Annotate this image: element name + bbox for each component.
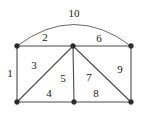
edge-label-3: 3 [31, 60, 37, 71]
graph-figure: 1 2 3 4 5 6 7 8 9 10 [0, 0, 141, 117]
edge-10-arc [17, 25, 131, 47]
vertex-top-right [129, 44, 134, 49]
edge-5-line [73, 46, 74, 102]
edge-label-6: 6 [96, 33, 102, 44]
vertex-top-middle [71, 44, 76, 49]
vertex-top-left [15, 44, 20, 49]
edge-label-9: 9 [117, 64, 123, 75]
vertex-bottom-right [129, 100, 134, 105]
edge-label-4: 4 [46, 88, 52, 99]
vertex-bottom-middle [72, 100, 77, 105]
edge-label-10: 10 [69, 8, 80, 19]
edge-label-1: 1 [7, 68, 13, 79]
edge-label-8: 8 [93, 88, 99, 99]
edge-label-5: 5 [60, 73, 66, 84]
edge-label-2: 2 [42, 32, 48, 43]
vertex-bottom-left [15, 100, 20, 105]
edge-label-7: 7 [86, 72, 92, 83]
